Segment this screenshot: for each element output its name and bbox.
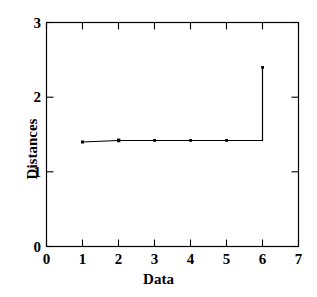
- x-tick-label-7: 7: [295, 252, 303, 267]
- y-axis-title: Distances: [25, 118, 40, 179]
- x-tick-label-2: 2: [115, 252, 123, 267]
- plot-frame: [47, 23, 299, 247]
- data-series-line: [83, 67, 263, 142]
- y-tick-label-3: 3: [34, 15, 42, 30]
- x-axis-ticks-top: [47, 23, 299, 30]
- x-tick-label-6: 6: [259, 252, 267, 267]
- x-axis-ticks-bottom: [47, 240, 299, 247]
- y-axis-ticks-left: [47, 23, 54, 247]
- x-axis-title: Data: [143, 272, 174, 287]
- x-tick-label-3: 3: [151, 252, 159, 267]
- y-axis-ticks-right: [292, 23, 299, 247]
- chart-figure: 0 1 2 3 4 5 6 7 0 1 2 3 Data Distances: [0, 0, 317, 297]
- x-tick-label-1: 1: [79, 252, 87, 267]
- x-tick-label-0: 0: [43, 252, 51, 267]
- x-tick-label-5: 5: [223, 252, 231, 267]
- y-tick-label-2: 2: [34, 90, 42, 105]
- data-point-markers: [81, 66, 264, 144]
- x-tick-label-4: 4: [187, 252, 195, 267]
- y-tick-label-0: 0: [34, 239, 42, 254]
